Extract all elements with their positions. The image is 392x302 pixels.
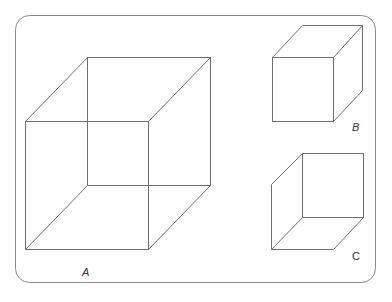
figure-frame xyxy=(16,16,376,283)
cube-b xyxy=(273,26,363,122)
cube-c xyxy=(272,154,364,250)
necker-cube-figure: A B C xyxy=(0,0,392,302)
cube-b-label: B xyxy=(352,121,359,133)
cube-a xyxy=(26,58,211,250)
cube-c-label: C xyxy=(352,250,360,262)
cube-a-label: A xyxy=(81,266,89,278)
